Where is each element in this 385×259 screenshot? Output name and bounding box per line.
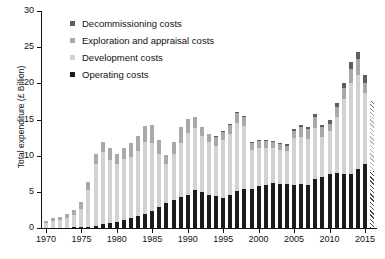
bar-segment [271,148,275,183]
x-tick-label: 1975 [64,235,98,244]
x-tick-label: 1980 [100,235,134,244]
bar-2002 [271,11,275,228]
bar-segment [370,171,374,228]
x-tick-mark [188,229,189,233]
bar-segment [65,214,69,218]
bar-segment [292,129,296,131]
bar-segment [214,146,218,197]
bar-segment [150,143,154,211]
bar-segment [186,195,190,228]
legend-label: Decommissioning costs [82,19,182,29]
bar-segment [271,141,275,142]
bar-segment [214,136,218,137]
x-tick-label: 1970 [29,235,63,244]
bar-segment [150,125,154,142]
bar-segment [228,125,232,134]
bar-segment [79,209,83,227]
bar-segment [313,114,317,117]
bar-segment [108,223,112,228]
bar-segment [264,141,268,148]
bar-2004 [285,11,289,228]
bar-2005 [292,11,296,228]
bar-segment [94,154,98,165]
y-tick-label: 30 [12,6,34,15]
bar-segment [207,142,211,195]
bar-segment [44,223,48,227]
bar-segment [349,83,353,174]
bar-segment [242,126,246,189]
x-tick-label: 2005 [277,235,311,244]
bar-segment [278,184,282,228]
bar-segment [342,83,346,88]
bar-segment [108,148,112,160]
x-tick-mark [259,229,260,233]
bar-segment [250,143,254,150]
bar-1971 [51,11,55,228]
bar-2000 [257,11,261,228]
bar-segment [285,151,289,184]
bar-segment [235,112,239,113]
bar-2006 [299,11,303,228]
bar-segment [257,141,261,148]
y-tick-label: 10 [12,151,34,160]
bar-2012 [342,11,346,228]
bar-segment [172,200,176,228]
bar-segment [363,93,367,163]
bar-segment [328,174,332,228]
legend-label: Exploration and appraisal costs [82,36,214,46]
bar-segment [257,186,261,228]
chart-legend: Decommissioning costsExploration and app… [70,15,214,83]
bar-2009 [320,11,324,228]
bar-segment [228,195,232,228]
bar-segment [278,150,282,184]
x-axis-line [41,228,377,229]
bar-segment [320,137,324,178]
y-tick-label: 5 [12,187,34,196]
bar-segment [129,143,133,157]
bar-segment [342,88,346,100]
bar-1973 [65,11,69,228]
bar-segment [299,127,303,136]
bar-segment [115,154,119,165]
bar-segment [58,217,62,221]
bar-segment [129,157,133,218]
bar-segment [257,148,261,186]
bar-segment [172,142,176,154]
bar-segment [108,160,112,223]
bar-segment [94,226,98,228]
legend-swatch-icon [70,72,75,77]
bar-segment [320,125,324,128]
bar-segment [164,155,168,164]
bar-segment [335,117,339,173]
y-tick-mark [37,228,41,229]
y-tick-label: 25 [12,42,34,51]
bar-segment [51,221,55,228]
bar-segment [257,140,261,141]
x-tick-mark [81,229,82,233]
bar-segment [129,218,133,228]
legend-item: Development costs [70,49,214,66]
bar-segment [200,127,204,136]
bar-segment [122,159,126,220]
bar-segment [136,136,140,150]
bar-segment [242,117,246,126]
bar-segment [86,182,90,191]
bar-segment [221,132,225,141]
legend-item: Decommissioning costs [70,15,214,32]
bar-segment [370,109,374,117]
legend-swatch-icon [70,55,75,60]
bar-segment [335,173,339,228]
bar-segment [150,211,154,228]
bar-segment [94,164,98,225]
bar-segment [79,227,83,228]
x-tick-label: 2010 [313,235,347,244]
bar-segment [207,195,211,228]
bar-segment [58,220,62,227]
bar-segment [328,124,332,131]
bar-segment [122,220,126,228]
bar-segment [356,52,360,59]
bar-segment [186,119,190,133]
bar-segment [370,117,374,171]
bar-segment [101,152,105,224]
bar-segment [299,137,303,184]
